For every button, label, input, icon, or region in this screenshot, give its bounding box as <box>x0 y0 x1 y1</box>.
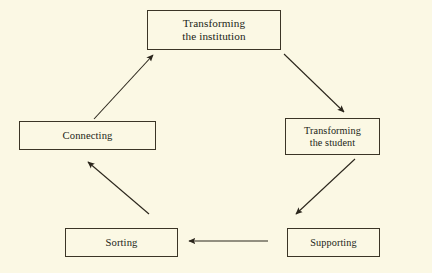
node-transforming-the-student: Transforming the student <box>285 118 380 155</box>
edge-student-to-supporting <box>296 159 355 214</box>
edge-institution-to-student <box>284 54 344 112</box>
cycle-diagram: Transforming the institution Transformin… <box>0 0 432 273</box>
node-label-supporting: Supporting <box>306 237 360 248</box>
node-label-institution: Transforming the institution <box>178 17 249 42</box>
node-label-student: Transforming the student <box>300 125 365 148</box>
node-connecting: Connecting <box>19 121 156 150</box>
node-sorting: Sorting <box>65 228 178 257</box>
node-transforming-the-institution: Transforming the institution <box>147 10 281 50</box>
edge-sorting-to-connecting <box>88 162 149 214</box>
node-label-sorting: Sorting <box>102 237 142 249</box>
node-supporting: Supporting <box>287 228 380 257</box>
node-label-connecting: Connecting <box>59 130 117 142</box>
edge-connecting-to-institution <box>94 55 153 119</box>
